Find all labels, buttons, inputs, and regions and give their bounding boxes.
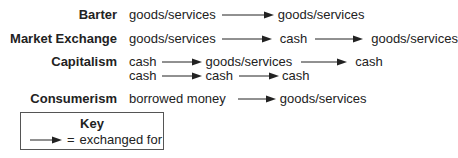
right-arrow-icon	[30, 132, 62, 147]
row-barter: goods/services goods/services	[129, 7, 364, 22]
term: cash	[282, 68, 309, 83]
term: cash	[355, 54, 382, 69]
term: cash	[205, 68, 232, 83]
term: goods/services	[278, 7, 365, 22]
arrow-right-icon	[238, 91, 276, 106]
row-capitalism-line-2: cash cash cash	[129, 68, 309, 83]
term: goods/services	[371, 31, 458, 46]
key-entry: = exchanged for	[30, 132, 162, 147]
term: cash	[129, 68, 156, 83]
key-meaning: exchanged for	[80, 132, 162, 147]
term: borrowed money	[129, 91, 226, 106]
row-label-capitalism: Capitalism	[51, 54, 117, 69]
term: cash	[129, 54, 156, 69]
key-title: Key	[21, 116, 163, 131]
row-capitalism-line-1: cash goods/services cash	[129, 54, 383, 69]
term: goods/services	[280, 91, 367, 106]
arrow-right-icon	[222, 31, 272, 46]
term: cash	[280, 31, 307, 46]
arrow-right-icon	[239, 68, 279, 83]
arrow-right-icon	[222, 7, 274, 22]
arrow-right-icon	[162, 54, 202, 69]
row-market-exchange: goods/services cash goods/services	[129, 31, 458, 46]
key-legend: Key = exchanged for	[20, 112, 164, 150]
term: goods/services	[129, 7, 216, 22]
key-equals: =	[67, 132, 75, 147]
arrow-right-icon	[162, 68, 202, 83]
row-label-barter: Barter	[79, 7, 117, 22]
term: goods/services	[205, 54, 292, 69]
row-label-market-exchange: Market Exchange	[10, 31, 117, 46]
term: goods/services	[129, 31, 216, 46]
arrow-right-icon	[301, 54, 347, 69]
arrow-right-icon	[315, 31, 363, 46]
row-consumerism: borrowed money goods/services	[129, 91, 367, 106]
row-label-consumerism: Consumerism	[30, 91, 117, 106]
